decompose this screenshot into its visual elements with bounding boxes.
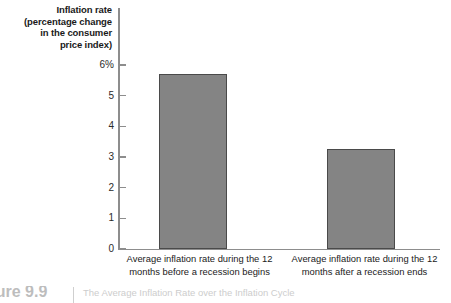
- bar-0: [159, 74, 227, 249]
- y-axis-line: [118, 8, 120, 250]
- y-axis-tick-label-1: 1: [80, 213, 114, 223]
- category-label-0-line-1: Average inflation rate during the 12: [112, 253, 287, 266]
- y-axis-tick-label-0: 0: [80, 244, 114, 254]
- y-axis-tick-label-3: 3: [80, 152, 114, 162]
- y-axis-title-line-3: in the consumer: [0, 27, 112, 39]
- y-axis-tick-label-2: 2: [80, 183, 114, 193]
- y-axis-title-line-1: Inflation rate: [0, 4, 112, 16]
- category-label-0-line-2: months before a recession begins: [112, 266, 287, 279]
- bar-chart-figure: Inflation rate (percentage change in the…: [0, 0, 451, 303]
- y-axis-tick-2: [120, 187, 126, 188]
- x-axis-category-label-1: Average inflation rate during the 12 mon…: [277, 253, 451, 278]
- category-label-1-line-2: months after a recession ends: [277, 266, 451, 279]
- y-axis-title-line-4: price index): [0, 39, 112, 51]
- y-axis-tick-label-6: 6%: [80, 60, 114, 70]
- y-axis-tick-0: [120, 248, 126, 249]
- x-axis-category-label-0: Average inflation rate during the 12 mon…: [112, 253, 287, 278]
- y-axis-tick-1: [120, 218, 126, 219]
- y-axis-tick-label-4: 4: [80, 121, 114, 131]
- category-label-1-line-1: Average inflation rate during the 12: [277, 253, 451, 266]
- figure-caption-text: The Average Inflation Rate over the Infl…: [83, 287, 295, 298]
- figure-caption: gure 9.9 The Average Inflation Rate over…: [0, 286, 451, 303]
- bar-1: [327, 149, 395, 249]
- y-axis-title-line-2: (percentage change: [0, 16, 112, 28]
- y-axis-tick-3: [120, 156, 126, 157]
- figure-number: gure 9.9: [0, 286, 47, 301]
- y-axis-tick-label-5: 5: [80, 91, 114, 101]
- caption-divider: [73, 287, 74, 303]
- y-axis-tick-6: [120, 64, 126, 65]
- y-axis-tick-4: [120, 126, 126, 127]
- y-axis-tick-5: [120, 95, 126, 96]
- y-axis-title: Inflation rate (percentage change in the…: [0, 4, 112, 50]
